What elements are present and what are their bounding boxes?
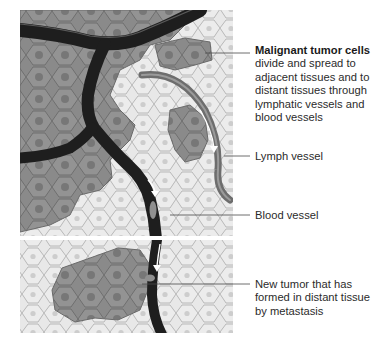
- extravasating-tumor-cell: [145, 275, 155, 282]
- label-malignant-tumor-cells-title: Malignant tumor cells: [255, 44, 370, 56]
- label-malignant-tumor-cells-body: divide and spread to adjacent tissues an…: [255, 57, 369, 123]
- label-malignant-tumor-cells: Malignant tumor cells divide and spread …: [255, 44, 377, 124]
- primary-tissue-panel: [20, 8, 233, 240]
- label-new-tumor: New tumor that has formed in distant tis…: [255, 278, 375, 318]
- distant-tissue-panel: [20, 240, 233, 340]
- label-blood-vessel: Blood vessel: [255, 209, 318, 222]
- label-lymph-vessel: Lymph vessel: [255, 150, 323, 163]
- circulating-tumor-cell: [150, 201, 157, 219]
